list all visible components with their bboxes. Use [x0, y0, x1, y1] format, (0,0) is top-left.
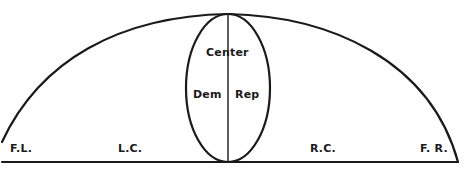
label-far-right: F. R. — [420, 142, 448, 155]
label-center: Center — [206, 46, 249, 59]
label-rep: Rep — [235, 88, 259, 101]
label-right-center: R.C. — [310, 142, 336, 155]
label-dem: Dem — [193, 88, 222, 101]
label-left-center: L.C. — [118, 142, 142, 155]
spectrum-diagram — [0, 0, 472, 173]
arc-left — [2, 14, 228, 142]
label-far-left: F.L. — [10, 142, 32, 155]
arc-right — [228, 14, 458, 162]
